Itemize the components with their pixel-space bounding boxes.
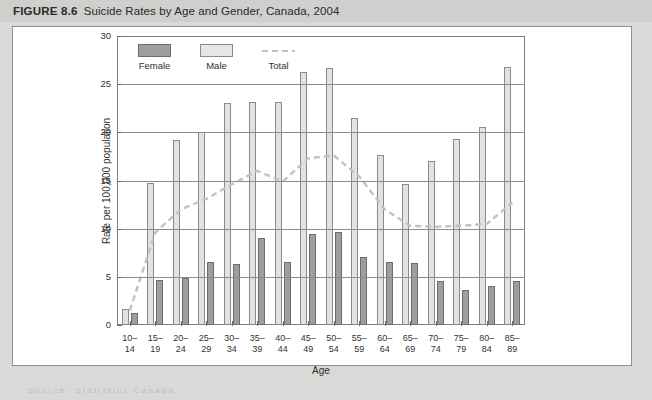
x-tick-label: 40–44 [275, 333, 290, 355]
legend-item-female: Female [138, 44, 171, 71]
legend-item-total: Total [262, 44, 295, 71]
y-tick-label: 30 [100, 31, 111, 41]
legend-swatch-total-icon [262, 44, 295, 57]
x-tick-label: 75–79 [454, 333, 469, 355]
x-tick-label: 15–19 [148, 333, 163, 355]
figure-caption: FIGURE 8.6Suicide Rates by Age and Gende… [13, 5, 339, 17]
x-axis-title: Age [117, 365, 525, 376]
y-tick-label: 15 [100, 176, 111, 186]
y-tick-label: 5 [106, 272, 111, 282]
y-gridline [117, 132, 525, 133]
y-gridline [117, 181, 525, 182]
legend-label-male: Male [200, 60, 233, 71]
x-axis-tick-labels: 10–1415–1920–2425–2930–3435–3940–4445–49… [117, 333, 525, 359]
figure-title: Suicide Rates by Age and Gender, Canada,… [84, 5, 340, 17]
legend-label-female: Female [138, 60, 171, 71]
y-tick-label: 25 [100, 79, 111, 89]
figure-page: FIGURE 8.6Suicide Rates by Age and Gende… [0, 0, 652, 400]
y-tick-mark [117, 325, 122, 326]
y-tick-mark [117, 132, 122, 133]
y-gridline [117, 229, 525, 230]
y-tick-mark [117, 36, 122, 37]
source-note: Source: Statistics Canada. [28, 386, 179, 395]
figure-caption-bar: FIGURE 8.6Suicide Rates by Age and Gende… [0, 0, 652, 22]
x-tick-label: 10–14 [122, 333, 137, 355]
y-tick-label: 0 [106, 320, 111, 330]
y-tick-mark [117, 84, 122, 85]
figure-number: FIGURE 8.6 [13, 5, 78, 17]
y-tick-label: 20 [100, 128, 111, 138]
legend-swatch-male-icon [200, 44, 233, 57]
chart-plot-area: Rate per 100,000 population 051015202530 [117, 36, 525, 325]
x-tick-label: 35–39 [250, 333, 265, 355]
x-tick-label: 55–59 [352, 333, 367, 355]
source-strip: Source: Statistics Canada. [0, 382, 652, 400]
x-tick-label: 85–89 [505, 333, 520, 355]
x-tick-label: 60–64 [377, 333, 392, 355]
x-tick-label: 25–29 [199, 333, 214, 355]
y-gridline [117, 84, 525, 85]
y-tick-mark [117, 277, 122, 278]
x-tick-label: 30–34 [224, 333, 239, 355]
x-tick-label: 65–69 [403, 333, 418, 355]
x-tick-label: 50–54 [326, 333, 341, 355]
legend-swatch-female-icon [138, 44, 171, 57]
y-tick-label: 10 [100, 224, 111, 234]
y-tick-mark [117, 181, 122, 182]
x-tick-label: 70–74 [428, 333, 443, 355]
y-tick-mark [117, 229, 122, 230]
y-gridline [117, 277, 525, 278]
total-line [130, 156, 513, 311]
x-tick-label: 20–24 [173, 333, 188, 355]
legend-label-total: Total [262, 60, 295, 71]
legend-item-male: Male [200, 44, 233, 71]
x-tick-label: 80–84 [479, 333, 494, 355]
x-tick-label: 45–49 [301, 333, 316, 355]
